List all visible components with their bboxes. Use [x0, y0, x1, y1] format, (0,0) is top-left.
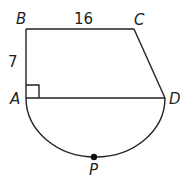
label-p: P — [89, 161, 99, 179]
label-b: B — [16, 10, 26, 28]
semicircle-arc — [26, 98, 165, 157]
label-bc-length: 16 — [74, 10, 93, 28]
label-c: C — [134, 11, 145, 29]
geometry-diagram: B 16 C 7 A D P — [0, 0, 188, 184]
label-a: A — [9, 90, 20, 108]
point-p-dot — [91, 154, 97, 160]
label-d: D — [169, 90, 181, 108]
segment-cd — [134, 29, 165, 98]
right-angle-marker — [26, 85, 39, 98]
label-ab-length: 7 — [8, 53, 18, 71]
